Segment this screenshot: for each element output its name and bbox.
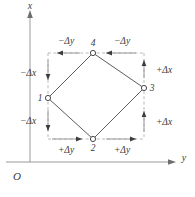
- dimension-label-left-upper: −Δx: [20, 68, 37, 78]
- node-label-1: 1: [38, 93, 43, 103]
- origin-label: O: [13, 170, 21, 182]
- node-marker-2[interactable]: [90, 136, 95, 141]
- x-axis-arrowhead: [27, 10, 33, 18]
- dimension-arrowhead-top-right: [106, 51, 112, 56]
- node-label-2: 2: [91, 143, 96, 153]
- figure-container: 1 2 3 4 −Δy −Δy +Δx +Δx +Δy: [0, 0, 195, 197]
- dimension-bottom-left: +Δy: [52, 137, 82, 155]
- dimension-arrowhead-bottom-right: [130, 137, 136, 142]
- dimension-arrowhead-top-left: [57, 51, 63, 56]
- y-axis-label: y: [181, 152, 187, 163]
- dimension-label-bottom-left: +Δy: [58, 145, 75, 155]
- dimension-arrowhead-right-upper: [142, 60, 147, 66]
- dashed-guide-rectangle: [48, 53, 144, 139]
- dimension-label-right-lower: +Δx: [156, 117, 173, 127]
- dimension-label-top-right: −Δy: [114, 36, 131, 46]
- node-displacement-figure: 1 2 3 4 −Δy −Δy +Δx +Δx +Δy: [0, 0, 195, 197]
- dimension-top-left: −Δy: [57, 36, 80, 55]
- dimension-label-left-lower: −Δx: [20, 116, 37, 126]
- dimension-arrowhead-left-lower: [46, 125, 51, 131]
- element-outline: [48, 53, 144, 139]
- dimension-left-lower: −Δx: [20, 110, 51, 131]
- dimension-label-right-upper: +Δx: [156, 65, 173, 75]
- dimension-left-upper: −Δx: [20, 60, 51, 80]
- dimension-arrowhead-right-lower: [142, 111, 147, 117]
- axis-labels: x y O: [13, 0, 187, 182]
- node-markers: [45, 50, 146, 141]
- node-label-3: 3: [149, 83, 155, 93]
- dimension-right-upper: +Δx: [142, 60, 173, 78]
- dimension-bottom-right: +Δy: [106, 137, 136, 155]
- y-axis-arrowhead: [168, 159, 176, 165]
- node-marker-3[interactable]: [141, 85, 146, 90]
- dimension-label-bottom-right: +Δy: [114, 145, 131, 155]
- dimension-arrowhead-bottom-left: [76, 137, 82, 142]
- x-axis-label: x: [27, 0, 33, 11]
- dimension-arrowhead-left-upper: [46, 74, 51, 80]
- node-marker-1[interactable]: [45, 95, 50, 100]
- dimension-right-lower: +Δx: [142, 111, 173, 132]
- quadrilateral-element: [48, 53, 144, 139]
- dimension-label-top-left: −Δy: [58, 36, 75, 46]
- node-marker-4[interactable]: [90, 50, 95, 55]
- node-label-4: 4: [91, 38, 96, 48]
- dimension-top-right: −Δy: [106, 36, 136, 55]
